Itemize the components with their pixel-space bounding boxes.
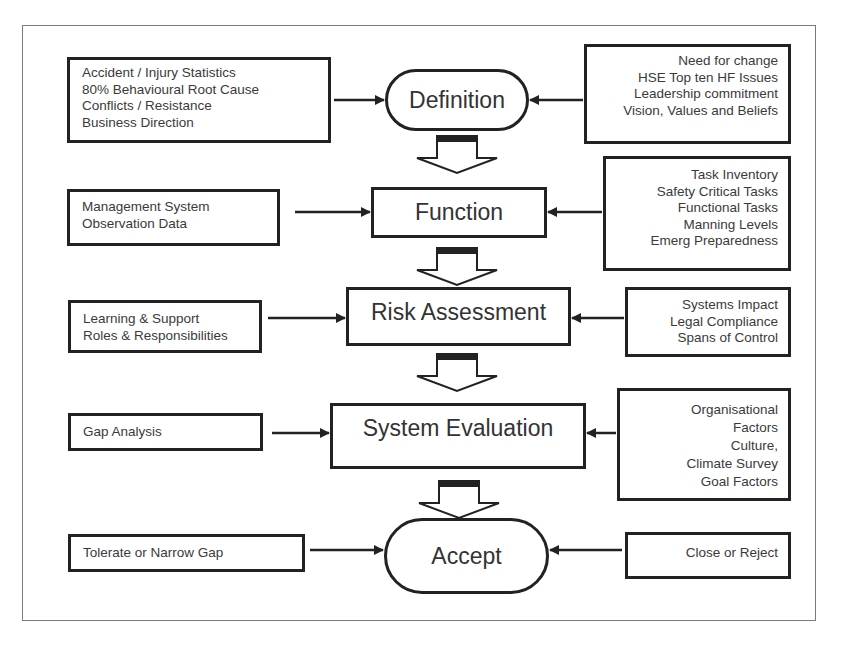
- definition-right-inputs: Need for change HSE Top ten HF Issues Le…: [584, 44, 791, 144]
- stage-accept: Accept: [384, 518, 549, 594]
- input-text: Roles & Responsibilities: [83, 328, 259, 345]
- function-left-inputs: Management System Observation Data: [67, 189, 280, 246]
- input-text: Conflicts / Resistance: [82, 98, 328, 115]
- system-evaluation-left-inputs: Gap Analysis: [68, 413, 263, 451]
- stage-label: Function: [415, 199, 503, 226]
- stage-label: Definition: [409, 87, 505, 114]
- input-text: Functional Tasks: [606, 200, 778, 217]
- input-text: Close or Reject: [628, 545, 778, 562]
- stage-risk-assessment: Risk Assessment: [346, 287, 571, 346]
- input-text: Observation Data: [82, 216, 277, 233]
- input-text: Culture,: [620, 437, 778, 455]
- input-text: Safety Critical Tasks: [606, 184, 778, 201]
- accept-right-inputs: Close or Reject: [625, 532, 791, 579]
- stage-label: Accept: [431, 543, 501, 570]
- input-text: Tolerate or Narrow Gap: [83, 545, 302, 562]
- input-text: Accident / Injury Statistics: [82, 65, 328, 82]
- input-text: Leadership commitment: [587, 86, 778, 103]
- accept-left-inputs: Tolerate or Narrow Gap: [68, 534, 305, 572]
- input-text: Organisational: [620, 401, 778, 419]
- stage-label: System Evaluation: [363, 415, 553, 442]
- input-text: Management System: [82, 199, 277, 216]
- input-text: Gap Analysis: [83, 424, 260, 441]
- input-text: Goal Factors: [620, 473, 778, 491]
- input-text: Systems Impact: [628, 297, 778, 314]
- input-text: Need for change: [587, 53, 778, 70]
- stage-system-evaluation: System Evaluation: [330, 403, 586, 469]
- risk-right-inputs: Systems Impact Legal Compliance Spans of…: [625, 287, 791, 357]
- input-text: Business Direction: [82, 115, 328, 132]
- input-text: 80% Behavioural Root Cause: [82, 82, 328, 99]
- stage-label: Risk Assessment: [371, 299, 546, 326]
- input-text: Emerg Preparedness: [606, 233, 778, 250]
- definition-left-inputs: Accident / Injury Statistics 80% Behavio…: [67, 57, 331, 143]
- stage-function: Function: [371, 187, 547, 238]
- input-text: Task Inventory: [606, 167, 778, 184]
- input-text: Learning & Support: [83, 311, 259, 328]
- system-evaluation-right-inputs: Organisational Factors Culture, Climate …: [617, 388, 791, 501]
- risk-left-inputs: Learning & Support Roles & Responsibilit…: [68, 300, 262, 353]
- input-text: Factors: [620, 419, 778, 437]
- input-text: Vision, Values and Beliefs: [587, 103, 778, 120]
- input-text: Manning Levels: [606, 217, 778, 234]
- stage-definition: Definition: [385, 69, 529, 131]
- input-text: HSE Top ten HF Issues: [587, 70, 778, 87]
- function-right-inputs: Task Inventory Safety Critical Tasks Fun…: [603, 156, 791, 271]
- input-text: Climate Survey: [620, 455, 778, 473]
- input-text: Spans of Control: [628, 330, 778, 347]
- input-text: Legal Compliance: [628, 314, 778, 331]
